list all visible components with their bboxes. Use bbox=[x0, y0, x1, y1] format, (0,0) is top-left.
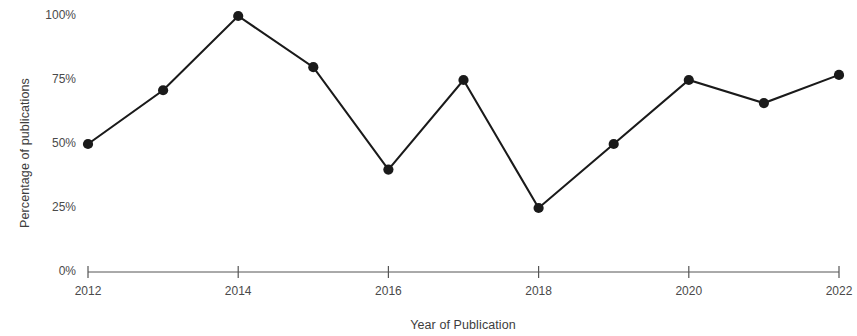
data-point-markers bbox=[83, 11, 844, 213]
data-point-2019 bbox=[609, 139, 619, 149]
y-axis-tick-label: 50% bbox=[32, 136, 76, 150]
data-point-2016 bbox=[383, 165, 393, 175]
y-axis-tick-label: 25% bbox=[32, 200, 76, 214]
data-point-2017 bbox=[458, 75, 468, 85]
x-axis-tick-label: 2012 bbox=[58, 284, 118, 298]
data-point-2018 bbox=[534, 203, 544, 213]
x-axis-title: Year of Publication bbox=[343, 318, 583, 332]
y-axis-tick-label: 75% bbox=[32, 72, 76, 86]
y-axis-title: Percentage of publications bbox=[18, 38, 32, 268]
x-axis-tick-label: 2018 bbox=[509, 284, 569, 298]
data-point-2020 bbox=[684, 75, 694, 85]
x-axis-tick-label: 2020 bbox=[659, 284, 719, 298]
x-axis-tick-label: 2014 bbox=[208, 284, 268, 298]
x-axis-tick-label: 2016 bbox=[358, 284, 418, 298]
data-point-2015 bbox=[308, 62, 318, 72]
x-axis-tick-label: 2022 bbox=[809, 284, 857, 298]
x-axis bbox=[88, 266, 839, 278]
data-point-2022 bbox=[834, 70, 844, 80]
data-point-2013 bbox=[158, 85, 168, 95]
data-point-2021 bbox=[759, 98, 769, 108]
data-point-2012 bbox=[83, 139, 93, 149]
y-axis-tick-label: 0% bbox=[32, 264, 76, 278]
data-point-2014 bbox=[233, 11, 243, 21]
data-series-line bbox=[88, 16, 839, 208]
series-line-percentage-of-publications bbox=[88, 16, 839, 208]
y-axis-tick-label: 100% bbox=[32, 8, 76, 22]
